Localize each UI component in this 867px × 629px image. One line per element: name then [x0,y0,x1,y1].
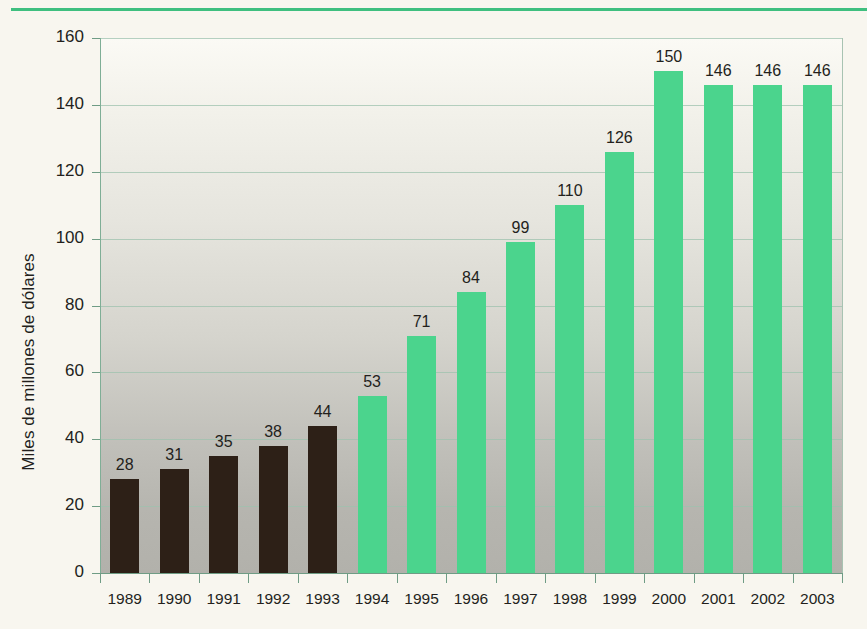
bar-value-label: 126 [589,129,649,147]
bar [110,479,139,573]
bar [308,426,337,573]
y-tick-label: 140 [14,94,84,114]
bar [605,152,634,573]
x-tick-mark [397,574,398,583]
x-tick-mark [199,574,200,583]
x-tick-mark [545,574,546,583]
y-axis-line [100,38,101,574]
x-tick-label: 2000 [641,590,697,608]
x-tick-mark [496,574,497,583]
y-tick-mark [92,306,100,307]
bar [753,85,782,573]
bar-value-label: 110 [540,182,600,200]
bar [407,336,436,573]
y-tick-label: 0 [14,562,84,582]
x-tick-label: 1989 [97,590,153,608]
x-tick-label: 1998 [542,590,598,608]
bar-chart: 020406080100120140160 283135384453718499… [0,0,867,629]
x-axis-line [100,573,843,574]
y-tick-mark [92,439,100,440]
x-tick-label: 1990 [146,590,202,608]
x-tick-label: 1995 [394,590,450,608]
bar [803,85,832,573]
x-tick-mark [644,574,645,583]
x-tick-mark [743,574,744,583]
bar [457,292,486,573]
x-tick-label: 1997 [492,590,548,608]
y-tick-mark [92,506,100,507]
x-tick-label: 1994 [344,590,400,608]
x-tick-mark [793,574,794,583]
x-tick-label: 1991 [196,590,252,608]
bar-value-label: 71 [392,313,452,331]
x-tick-label: 1999 [591,590,647,608]
bar [209,456,238,573]
bar-value-label: 146 [787,62,847,80]
y-tick-mark [92,105,100,106]
x-tick-label: 2001 [690,590,746,608]
y-tick-label: 160 [14,27,84,47]
x-tick-label: 2002 [740,590,796,608]
x-tick-mark [347,574,348,583]
bar [259,446,288,573]
y-tick-mark [92,172,100,173]
plot-right-border [842,38,843,574]
x-tick-mark [595,574,596,583]
bar [654,71,683,573]
x-tick-label: 2003 [789,590,845,608]
bar-value-label: 44 [293,403,353,421]
x-tick-mark [694,574,695,583]
x-tick-label: 1996 [443,590,499,608]
bar [358,396,387,573]
y-axis-title: Miles de millones de dólares [19,202,39,522]
x-tick-mark [446,574,447,583]
bar-value-label: 84 [441,269,501,287]
y-tick-mark [92,573,100,574]
y-tick-mark [92,239,100,240]
y-tick-mark [92,372,100,373]
y-tick-mark [92,38,100,39]
bar [555,205,584,573]
y-tick-label: 120 [14,161,84,181]
bar [704,85,733,573]
bar [160,469,189,573]
bar-value-label: 53 [342,373,402,391]
x-tick-label: 1992 [245,590,301,608]
x-tick-mark [248,574,249,583]
x-tick-mark [298,574,299,583]
x-tick-mark [100,574,101,583]
x-tick-mark [842,574,843,583]
bar-value-label: 38 [243,423,303,441]
bar-value-label: 99 [490,219,550,237]
x-tick-mark [149,574,150,583]
bar [506,242,535,573]
x-tick-label: 1993 [295,590,351,608]
gridline [100,38,843,39]
